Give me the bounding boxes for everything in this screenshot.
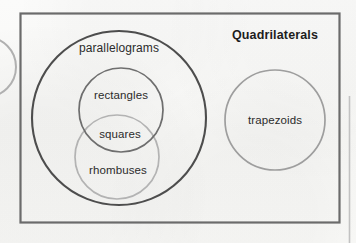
set-label-parallelograms: parallelograms bbox=[79, 41, 159, 55]
set-circle-parallelograms bbox=[32, 31, 206, 205]
venn-diagram-figure: Quadrilaterals parallelograms rectangles… bbox=[0, 0, 356, 243]
set-label-rectangles: rectangles bbox=[94, 89, 148, 101]
universal-set-title: Quadrilaterals bbox=[232, 28, 318, 42]
set-label-rhombuses: rhombuses bbox=[89, 164, 147, 176]
set-label-squares: squares bbox=[99, 128, 141, 140]
left-partial-circle-artifact bbox=[0, 37, 16, 97]
set-label-trapezoids: trapezoids bbox=[248, 114, 302, 126]
